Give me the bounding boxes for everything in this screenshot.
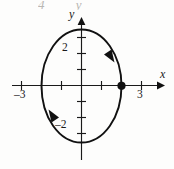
x-axis-label: x <box>160 68 165 80</box>
graph-figure: 4 y <box>0 0 174 169</box>
y-axis <box>78 17 86 160</box>
y-tick-label-2: 2 <box>62 42 68 54</box>
x-axis-arrowhead <box>157 82 165 90</box>
y-axis-arrowhead <box>78 17 86 25</box>
x-tick-label--3: –3 <box>14 89 26 101</box>
marked-point <box>117 82 125 90</box>
y-axis-label: y <box>69 8 74 20</box>
coordinate-plane <box>0 0 174 169</box>
y-tick-label--2: –2 <box>55 119 67 131</box>
x-tick-label-3: 3 <box>137 89 143 101</box>
